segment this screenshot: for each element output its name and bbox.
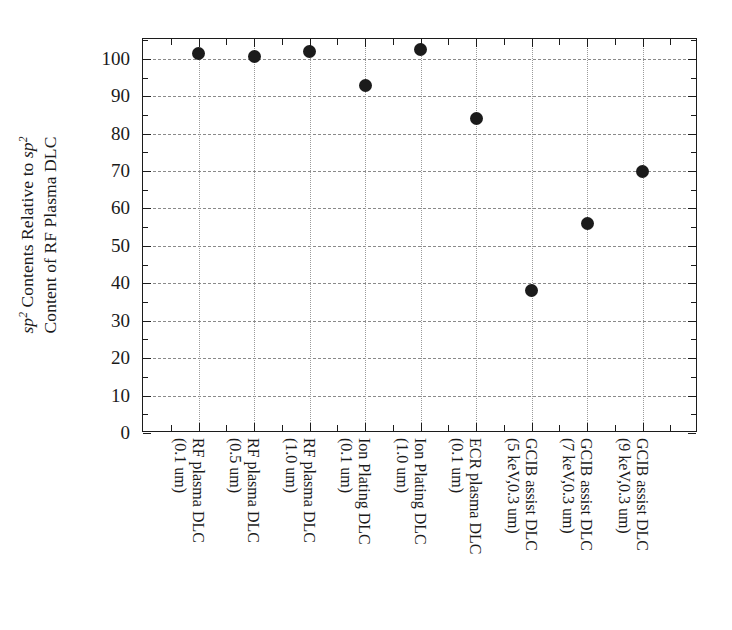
y-axis-tick-major [688, 59, 696, 60]
y-axis-tick-major [688, 321, 696, 322]
x-axis-tick-label-line1: Ion Plating DLC [411, 438, 429, 628]
y-axis-title-superscript-2: 2 [17, 136, 29, 142]
y-axis-tick-label: 30 [111, 310, 130, 329]
data-point [581, 217, 594, 230]
y-axis-tick-major [688, 246, 696, 247]
y-axis-tick-minor [691, 190, 696, 191]
x-axis-tick-label-line2: (0.5 um) [227, 438, 245, 628]
y-axis-title-line1-text: Contents Relative to [17, 163, 37, 308]
x-axis-tick-minor [337, 39, 338, 45]
gridline-vertical [476, 39, 477, 431]
y-axis-tick-major [143, 59, 151, 60]
x-axis-tick-minor [226, 425, 227, 431]
gridline-vertical [199, 39, 200, 431]
x-axis-tick [365, 423, 366, 431]
gridline-horizontal [143, 96, 696, 97]
x-axis-tick-label: RF plasma DLC(0.5 um) [232, 438, 262, 628]
gridline-horizontal [143, 171, 696, 172]
y-axis-tick-major [688, 208, 696, 209]
x-axis-tick-label-line1: RF plasma DLC [300, 438, 318, 628]
plot-area [142, 38, 697, 432]
y-axis-tick-minor [691, 40, 696, 41]
y-axis-tick-minor [143, 339, 148, 340]
y-axis-title-symbol-2: sp [17, 142, 37, 158]
x-axis-tick-label-line2: (0.1 um) [172, 438, 190, 628]
x-axis-tick [643, 423, 644, 431]
x-axis-tick-label-line2: (5 keV,0.3 um) [505, 438, 523, 628]
x-axis-tick-label: GCIB assist DLC(7 keV,0.3 um) [565, 438, 595, 628]
x-axis-tick [587, 423, 588, 431]
data-point [303, 45, 316, 58]
gridline-horizontal [143, 396, 696, 397]
x-axis-tick-minor [559, 425, 560, 431]
y-axis-tick-minor [691, 302, 696, 303]
data-point [414, 43, 427, 56]
x-axis-tick-minor [337, 425, 338, 431]
y-axis-tick-label: 60 [111, 198, 130, 217]
y-axis-tick-major [143, 396, 151, 397]
x-axis-tick-label: RF plasma DLC(1.0 um) [288, 438, 318, 628]
y-axis-tick-major [143, 171, 151, 172]
y-axis-tick-minor [691, 265, 696, 266]
y-axis-title-line2-text: Content of RF Plasma DLC [38, 136, 60, 333]
y-axis-tick-minor [143, 302, 148, 303]
gridline-vertical [643, 39, 644, 431]
gridline-vertical [532, 39, 533, 431]
x-axis-tick-minor [282, 39, 283, 45]
data-point [248, 50, 261, 63]
gridline-vertical [365, 39, 366, 431]
y-axis-tick-minor [691, 152, 696, 153]
x-axis-tick [199, 39, 200, 47]
y-axis-tick-label: 90 [111, 86, 130, 105]
data-point [192, 47, 205, 60]
x-axis-tick-label-line1: RF plasma DLC [189, 438, 207, 628]
x-axis-tick-minor [615, 39, 616, 45]
y-axis-tick-label: 50 [111, 235, 130, 254]
y-axis-tick-major [688, 96, 696, 97]
gridline-horizontal [143, 59, 696, 60]
x-axis-tick [476, 423, 477, 431]
gridline-horizontal [143, 246, 696, 247]
y-axis-title: sp2 Contents Relative to sp2 Content of … [14, 38, 58, 432]
tick-layer [143, 39, 696, 431]
y-axis-tick-major [143, 283, 151, 284]
y-axis-tick-label: 70 [111, 161, 130, 180]
y-axis-tick-label: 20 [111, 348, 130, 367]
gridline-horizontal [143, 134, 696, 135]
grid-layer [143, 39, 696, 431]
x-axis-tick-labels: RF plasma DLC(0.1 um)RF plasma DLC(0.5 u… [142, 434, 697, 630]
x-axis-tick-minor [393, 425, 394, 431]
y-axis-tick-minor [691, 339, 696, 340]
y-axis-title-text: sp2 Contents Relative to sp2 Content of … [12, 136, 61, 333]
y-axis-tick-minor [143, 115, 148, 116]
x-axis-tick-label-line1: GCIB assist DLC [633, 438, 651, 628]
x-axis-tick-minor [448, 39, 449, 45]
y-axis-tick-major [688, 171, 696, 172]
x-axis-tick [254, 39, 255, 47]
x-axis-tick-label-line2: (1.0 um) [283, 438, 301, 628]
x-axis-tick [310, 423, 311, 431]
x-axis-tick-minor [504, 425, 505, 431]
gridline-vertical [587, 39, 588, 431]
y-axis-tick-major [143, 208, 151, 209]
gridline-horizontal [143, 208, 696, 209]
y-axis-tick-label: 0 [121, 423, 131, 442]
x-axis-tick-label-line2: (0.1 um) [449, 438, 467, 628]
x-axis-tick-label-line2: (0.1 um) [338, 438, 356, 628]
data-point [470, 112, 483, 125]
y-axis-tick-minor [691, 78, 696, 79]
x-axis-tick [199, 423, 200, 431]
x-axis-tick-label-line2: (9 keV,0.3 um) [616, 438, 634, 628]
data-point [525, 284, 538, 297]
x-axis-tick-minor [171, 425, 172, 431]
y-axis-tick-labels: 0102030405060708090100 [62, 30, 136, 450]
x-axis-tick-label: GCIB assist DLC(9 keV,0.3 um) [621, 438, 651, 628]
x-axis-tick-minor [282, 425, 283, 431]
x-axis-tick-minor [670, 39, 671, 45]
x-axis-tick-minor [615, 425, 616, 431]
y-axis-tick-minor [691, 377, 696, 378]
y-axis-tick-major [688, 283, 696, 284]
x-axis-tick [365, 39, 366, 47]
y-axis-tick-minor [691, 227, 696, 228]
data-point [359, 79, 372, 92]
